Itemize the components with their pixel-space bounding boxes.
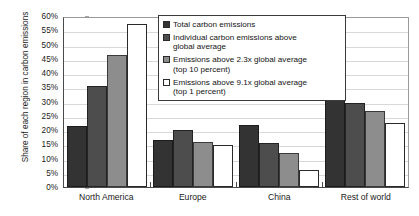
x-axis-category-label: Europe xyxy=(150,192,237,202)
chart-legend: Total carbon emissionsIndividual carbon … xyxy=(158,15,346,101)
legend-item[interactable]: Emissions above 9.1x global average(top … xyxy=(163,78,341,97)
bar xyxy=(299,170,319,187)
y-axis-tick: 20% xyxy=(26,127,58,135)
x-axis-tick-labels: North AmericaEuropeChinaRest of world xyxy=(63,192,409,202)
x-axis-tick-mark xyxy=(150,182,151,187)
y-axis-tick: 30% xyxy=(26,98,58,106)
y-axis-tick: 25% xyxy=(26,113,58,121)
y-axis-tick-labels: 60%55%50%45%40%35%30%25%20%15%10%5%0% xyxy=(26,17,58,188)
bar xyxy=(259,143,279,187)
legend-item-label: Individual carbon emissions aboveglobal … xyxy=(173,33,297,52)
legend-item-label: Total carbon emissions xyxy=(173,20,255,29)
y-axis-tick: 0% xyxy=(26,184,58,192)
x-axis-category-label: North America xyxy=(63,192,150,202)
legend-swatch-icon xyxy=(163,21,170,28)
x-axis-category-label: Rest of world xyxy=(323,192,410,202)
bar xyxy=(385,123,405,187)
bar xyxy=(173,130,193,187)
bar xyxy=(153,140,173,187)
bar-group xyxy=(64,18,150,187)
legend-item-label: Emissions above 9.1x global average(top … xyxy=(173,78,307,97)
legend-item[interactable]: Individual carbon emissions aboveglobal … xyxy=(163,33,341,52)
bar xyxy=(365,111,385,187)
bar xyxy=(239,125,259,187)
legend-item[interactable]: Emissions above 2.3x global average(top … xyxy=(163,55,341,74)
y-axis-tick: 40% xyxy=(26,70,58,78)
y-axis-tick: 60% xyxy=(26,13,58,21)
x-axis-category-label: China xyxy=(236,192,323,202)
y-axis-tick: 50% xyxy=(26,41,58,49)
x-axis-tick-mark xyxy=(322,182,323,187)
bar-group-bars xyxy=(64,18,150,187)
bar xyxy=(87,86,107,187)
y-axis-tick: 10% xyxy=(26,155,58,163)
bar xyxy=(107,55,127,187)
legend-swatch-icon xyxy=(163,79,170,86)
x-axis-tick-mark xyxy=(236,182,237,187)
bar xyxy=(345,103,365,187)
bar xyxy=(213,145,233,187)
legend-item-label: Emissions above 2.3x global average(top … xyxy=(173,55,307,74)
bar xyxy=(127,24,147,187)
legend-item-label-line2: (top 10 percent) xyxy=(173,65,230,74)
y-axis-tick: 45% xyxy=(26,56,58,64)
y-axis-tick: 15% xyxy=(26,141,58,149)
y-axis-tick: 55% xyxy=(26,27,58,35)
legend-item-label-line2: global average xyxy=(173,42,226,51)
bar xyxy=(193,142,213,187)
legend-swatch-icon xyxy=(163,56,170,63)
bar-chart: Share of each region in carbon emissions… xyxy=(0,0,419,216)
bar xyxy=(279,153,299,187)
bar xyxy=(67,126,87,187)
legend-item-label-line2: (top 1 percent) xyxy=(173,87,226,96)
legend-swatch-icon xyxy=(163,34,170,41)
y-axis-tick: 35% xyxy=(26,84,58,92)
y-axis-tick: 5% xyxy=(26,170,58,178)
legend-item[interactable]: Total carbon emissions xyxy=(163,20,341,29)
